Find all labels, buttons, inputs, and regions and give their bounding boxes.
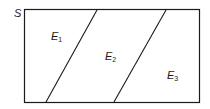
partition-line-2 [114,10,166,102]
partition-line-1 [46,10,97,102]
partition-diagram: S E1 E2 E3 [0,0,210,109]
event-label-e3: E3 [167,69,178,82]
event-label-e2: E2 [105,50,116,63]
sample-space-label: S [14,7,22,19]
event-label-e1: E1 [51,30,62,43]
